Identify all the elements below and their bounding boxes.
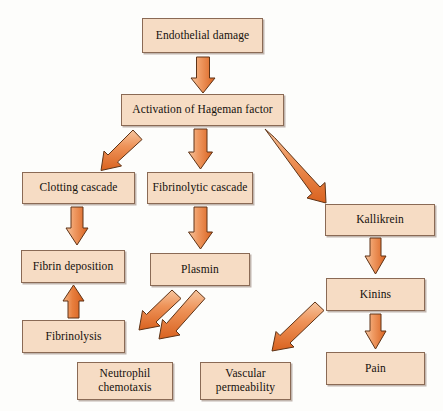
arrow-plasmin-to-neutrophil [159, 290, 205, 339]
arrow-hageman-to-clotting [101, 130, 142, 171]
node-label: Neutrophil chemotaxis [98, 367, 151, 394]
node-label: Clotting cascade [40, 181, 118, 195]
flowchart-diagram: Endothelial damage Activation of Hageman… [0, 0, 443, 411]
node-kallikrein[interactable]: Kallikrein [325, 204, 435, 236]
node-fibrinolysis[interactable]: Fibrinolysis [22, 320, 125, 353]
node-label: Kallikrein [356, 213, 404, 227]
arrow-hageman-to-kallikrein [265, 129, 326, 203]
node-kinins[interactable]: Kinins [326, 278, 425, 311]
node-label: Plasmin [181, 263, 219, 277]
node-fibrinolytic-cascade[interactable]: Fibrinolytic cascade [147, 172, 253, 204]
node-label: Endothelial damage [156, 29, 249, 43]
node-label: Activation of Hageman factor [132, 103, 272, 117]
arrow-clotting-to-fibrin [66, 207, 88, 245]
node-label: Fibrin deposition [33, 260, 114, 274]
node-label: Vascular permeability [216, 367, 275, 394]
node-neutrophil-chemotaxis[interactable]: Neutrophil chemotaxis [77, 362, 173, 400]
node-vascular-permeability[interactable]: Vascular permeability [200, 362, 291, 400]
arrow-kinins-to-pain [365, 314, 386, 349]
node-fibrin-deposition[interactable]: Fibrin deposition [21, 250, 125, 283]
node-label: Pain [365, 362, 386, 376]
node-endothelial-damage[interactable]: Endothelial damage [142, 18, 263, 53]
arrow-fibrinolytic-to-plasmin [189, 207, 213, 249]
node-clotting-cascade[interactable]: Clotting cascade [22, 172, 135, 204]
node-label: Kinins [360, 288, 391, 302]
node-label: Fibrinolytic cascade [153, 181, 248, 195]
node-hageman-activation[interactable]: Activation of Hageman factor [121, 94, 284, 126]
arrow-endothelial-to-hageman [191, 57, 215, 93]
arrow-plasmin-to-fibrinolysis [139, 290, 181, 330]
node-plasmin[interactable]: Plasmin [150, 253, 250, 286]
arrow-kallikrein-to-kinins [365, 238, 386, 274]
node-label: Fibrinolysis [45, 330, 101, 344]
arrow-kinins-to-vascular [272, 302, 324, 351]
arrow-hageman-to-fibrinolytic [189, 129, 213, 169]
arrow-fibrinolysis-to-fibrin [63, 285, 84, 318]
node-pain[interactable]: Pain [326, 352, 425, 385]
